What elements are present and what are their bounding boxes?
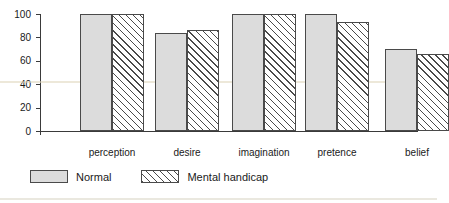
legend-label-mental-handicap: Mental handicap bbox=[187, 171, 268, 183]
bar-belief-mental-handicap bbox=[417, 54, 449, 131]
chart-legend: Normal Mental handicap bbox=[30, 170, 268, 183]
y-tick-20: 20 bbox=[36, 108, 40, 109]
y-tick-label: 20 bbox=[20, 103, 31, 113]
category-label-desire: desire bbox=[155, 147, 219, 159]
category-label-imagination: imagination bbox=[232, 147, 296, 159]
y-tick-label: 0 bbox=[25, 127, 31, 137]
bar-belief-normal bbox=[385, 49, 417, 131]
legend-swatch-mental-handicap-icon bbox=[141, 170, 179, 183]
y-tick-40: 40 bbox=[36, 84, 40, 85]
y-tick-label: 100 bbox=[14, 10, 31, 20]
bar-perception-normal bbox=[80, 14, 112, 131]
category-label-perception: perception bbox=[80, 147, 144, 159]
bar-pretence-normal bbox=[305, 14, 337, 131]
y-tick-60: 60 bbox=[36, 61, 40, 62]
legend-item-mental-handicap: Mental handicap bbox=[141, 170, 268, 183]
legend-label-normal: Normal bbox=[76, 171, 111, 183]
x-axis-line bbox=[40, 131, 418, 132]
bar-perception-mental-handicap bbox=[112, 14, 144, 131]
bar-pretence-mental-handicap bbox=[337, 22, 369, 131]
legend-item-normal: Normal bbox=[30, 170, 111, 183]
y-tick-label: 60 bbox=[20, 56, 31, 66]
bar-desire-mental-handicap bbox=[187, 30, 219, 131]
y-tick-0: 0 bbox=[36, 131, 40, 132]
category-label-belief: belief bbox=[385, 147, 449, 159]
y-tick-100: 100 bbox=[36, 14, 40, 15]
legend-swatch-normal-icon bbox=[30, 170, 68, 183]
category-label-pretence: pretence bbox=[305, 147, 369, 159]
plot-area: 020406080100 perceptiondesireimagination… bbox=[40, 10, 425, 135]
bar-imagination-normal bbox=[232, 14, 264, 131]
y-axis-line bbox=[40, 14, 41, 135]
y-tick-label: 40 bbox=[20, 80, 31, 90]
bar-imagination-mental-handicap bbox=[264, 14, 296, 131]
bottom-scan-artifact bbox=[0, 198, 437, 200]
y-tick-80: 80 bbox=[36, 37, 40, 38]
y-tick-label: 80 bbox=[20, 33, 31, 43]
bar-desire-normal bbox=[155, 33, 187, 131]
